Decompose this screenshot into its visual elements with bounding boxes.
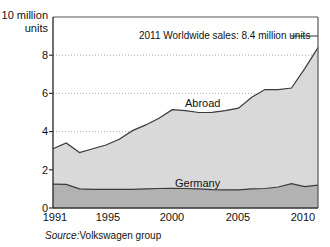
worldwide-sales-callout: 2011 Worldwide sales: 8.4 million units bbox=[139, 30, 310, 41]
chart-figure: 10 million units 8 6 4 2 0 1991 1995 200… bbox=[0, 0, 330, 247]
source-value: Volkswagen group bbox=[79, 230, 161, 241]
source-caption: Source:Volkswagen group bbox=[45, 230, 161, 241]
source-label: Source: bbox=[45, 230, 79, 241]
series-label-germany: Germany bbox=[175, 177, 220, 189]
series-label-abroad: Abroad bbox=[185, 97, 220, 109]
